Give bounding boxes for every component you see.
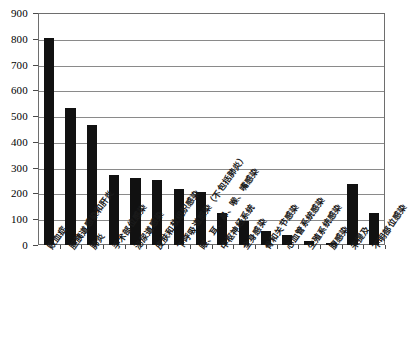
y-tick-label: 700	[11, 59, 28, 70]
y-tick-label: 100	[11, 214, 28, 225]
y-tick-label: 800	[11, 33, 28, 44]
x-axis-labels: 败血症胆胰道感染和肝炎肺炎手术部位感染泌尿道感染皮肤和软组织感染下呼吸道感染（不…	[0, 246, 420, 358]
y-tick-label: 900	[11, 8, 28, 19]
y-tick-label: 500	[11, 111, 28, 122]
y-tick-label: 200	[11, 188, 28, 199]
bar-chart: 0100200300400500600700800900 败血症胆胰道感染和肝炎…	[0, 0, 420, 358]
y-axis: 0100200300400500600700800900	[0, 13, 34, 245]
y-tick-label: 300	[11, 162, 28, 173]
bar	[65, 108, 75, 245]
y-tick-label: 600	[11, 85, 28, 96]
y-tick-label: 400	[11, 136, 28, 147]
bar	[44, 38, 54, 246]
